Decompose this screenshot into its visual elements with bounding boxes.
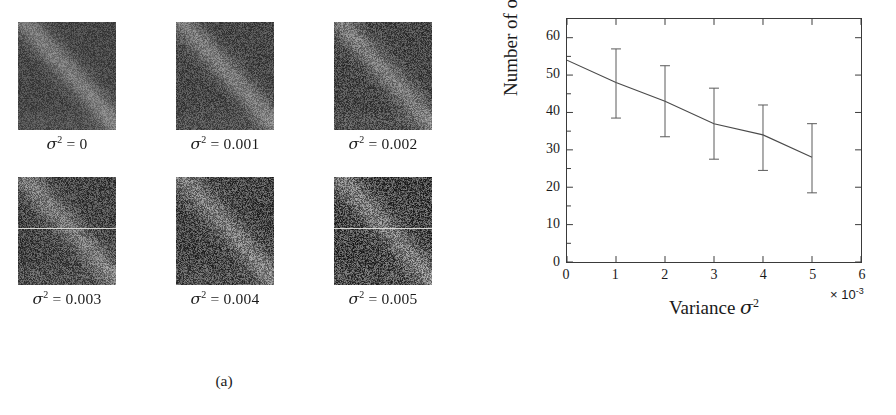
noise-tile-label-1: σ2 = 0.001 <box>176 134 274 153</box>
x-tick-label-3: 3 <box>704 267 724 283</box>
x-axis-multiplier: × 10-3 <box>830 286 864 302</box>
noise-image-sigma2-0.001 <box>176 22 274 130</box>
noise-tile-label-0: σ2 = 0 <box>18 134 116 153</box>
x-axis-multiplier-exponent: -3 <box>856 286 864 296</box>
x-axis-label-text: Variance <box>669 297 740 318</box>
noise-tile-4: σ2 = 0.004 <box>176 177 274 308</box>
noise-tile-label-4: σ2 = 0.004 <box>176 289 274 308</box>
y-tick-label-40: 40 <box>530 103 560 119</box>
noise-tile-3: σ2 = 0.003 <box>18 177 116 308</box>
x-tick-label-6: 6 <box>852 267 872 283</box>
x-tick-label-1: 1 <box>605 267 625 283</box>
y-tick-label-30: 30 <box>530 141 560 157</box>
noise-image-grid: σ2 = 0 σ2 = 0.001 σ2 = 0.002 σ2 = 0.003 <box>18 22 430 314</box>
noise-tile-label-3: σ2 = 0.003 <box>18 289 116 308</box>
chart-plot-area <box>566 18 862 263</box>
error-bar <box>807 124 817 193</box>
noise-image-sigma2-0.005 <box>334 177 432 285</box>
x-tick-label-5: 5 <box>803 267 823 283</box>
x-axis-label-sigma: σ <box>740 296 753 318</box>
noise-image-sigma2-0.003 <box>18 177 116 285</box>
noise-tile-1: σ2 = 0.001 <box>176 22 274 153</box>
figure-container: σ2 = 0 σ2 = 0.001 σ2 = 0.002 σ2 = 0.003 <box>0 0 896 415</box>
panel-a-caption: (a) <box>0 372 448 390</box>
y-tick-label-10: 10 <box>530 216 560 232</box>
error-bar <box>709 88 719 159</box>
error-bars-group <box>611 49 817 193</box>
error-bar <box>660 66 670 137</box>
error-bar <box>758 105 768 170</box>
x-tick-label-2: 2 <box>655 267 675 283</box>
panel-b-chart: 0102030405060 0123456 Number of objects … <box>448 0 896 415</box>
noise-tile-5: σ2 = 0.005 <box>334 177 432 308</box>
noise-tile-label-2: σ2 = 0.002 <box>334 134 432 153</box>
x-tick-label-4: 4 <box>753 267 773 283</box>
x-axis-label-exponent: 2 <box>753 296 759 310</box>
noise-tile-0: σ2 = 0 <box>18 22 116 153</box>
noise-tile-2: σ2 = 0.002 <box>334 22 432 153</box>
noise-image-row-2: σ2 = 0.003 σ2 = 0.004 σ2 = 0.005 <box>18 177 430 308</box>
x-axis-label: Variance σ2 <box>566 296 862 319</box>
panel-a-noise-images: σ2 = 0 σ2 = 0.001 σ2 = 0.002 σ2 = 0.003 <box>0 0 448 415</box>
noise-image-sigma2-0.002 <box>334 22 432 130</box>
chart-svg <box>567 19 861 262</box>
y-axis-label: Number of objects <box>500 0 522 96</box>
x-axis-multiplier-base: × 10 <box>830 287 856 302</box>
noise-image-sigma2-0.004 <box>176 177 274 285</box>
y-tick-label-20: 20 <box>530 179 560 195</box>
x-tick-label-0: 0 <box>556 267 576 283</box>
y-tick-label-50: 50 <box>530 66 560 82</box>
noise-tile-label-5: σ2 = 0.005 <box>334 289 432 308</box>
noise-image-row-1: σ2 = 0 σ2 = 0.001 σ2 = 0.002 <box>18 22 430 153</box>
noise-image-sigma2-0 <box>18 22 116 130</box>
data-line-series <box>567 60 812 157</box>
y-tick-label-60: 60 <box>530 28 560 44</box>
